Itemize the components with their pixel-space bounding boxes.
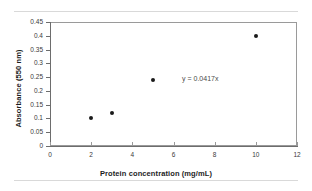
y-tick-mark	[46, 36, 50, 37]
top-divider-rule	[14, 11, 298, 12]
x-tick-mark	[132, 142, 133, 146]
y-tick-mark	[46, 50, 50, 51]
data-point-marker	[151, 78, 155, 82]
y-tick-mark	[46, 105, 50, 106]
y-axis-line	[50, 22, 51, 147]
y-tick-label: 0.45	[18, 19, 43, 26]
y-tick-mark	[46, 91, 50, 92]
x-tick-mark	[50, 142, 51, 146]
x-tick-mark	[297, 142, 298, 146]
data-point-marker	[254, 34, 258, 38]
y-tick-mark	[46, 146, 50, 147]
x-tick-label: 6	[172, 152, 176, 159]
y-tick-mark	[46, 22, 50, 23]
x-tick-label: 2	[89, 152, 93, 159]
x-tick-label: 10	[252, 152, 259, 159]
x-tick-mark	[256, 142, 257, 146]
x-tick-mark	[91, 142, 92, 146]
x-tick-mark	[174, 142, 175, 146]
x-tick-label: 12	[293, 152, 300, 159]
y-tick-mark	[46, 118, 50, 119]
data-point-marker	[89, 116, 93, 120]
x-tick-mark	[215, 142, 216, 146]
data-point-marker	[110, 111, 114, 115]
y-axis-title: Absorbance (550 nm)	[14, 29, 23, 149]
x-tick-label: 8	[213, 152, 217, 159]
x-axis-line	[50, 146, 298, 147]
y-tick-mark	[46, 63, 50, 64]
trendline-equation-label: y = 0.0417x	[182, 74, 218, 81]
bottom-divider-rule	[14, 180, 298, 181]
y-tick-mark	[46, 77, 50, 78]
chart-figure: 00.050.10.150.20.250.30.350.40.45 024681…	[0, 0, 312, 191]
plot-area-frame	[50, 22, 297, 146]
y-tick-mark	[46, 132, 50, 133]
x-axis-title: Protein concentration (mg/mL)	[0, 169, 312, 178]
x-tick-label: 0	[48, 152, 52, 159]
x-tick-label: 4	[131, 152, 135, 159]
